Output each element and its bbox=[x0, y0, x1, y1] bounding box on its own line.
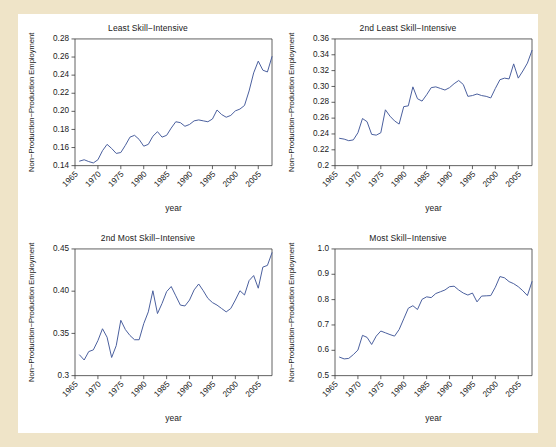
y-tick-label: 0.26 bbox=[53, 52, 69, 61]
plot-area-2nd-least-skill-intensive: 0.20.220.240.260.280.300.320.340.3619651… bbox=[278, 14, 538, 224]
y-tick-label: 1.0 bbox=[318, 244, 330, 253]
x-axis-title: year bbox=[165, 203, 182, 213]
x-tick-label: 1990 bbox=[129, 379, 149, 399]
y-tick-label: 0.45 bbox=[53, 244, 69, 253]
y-axis-title: Non−Production−Production Employment bbox=[27, 32, 36, 172]
x-tick-label: 1995 bbox=[198, 169, 218, 189]
plot-frame bbox=[335, 248, 532, 375]
x-tick-label: 2005 bbox=[504, 169, 524, 189]
x-tick-label: 1965 bbox=[61, 379, 81, 399]
x-tick-label: 2005 bbox=[504, 379, 524, 399]
x-tick-label: 1970 bbox=[344, 169, 364, 189]
x-tick-label: 1990 bbox=[175, 379, 195, 399]
x-axis-title: year bbox=[425, 203, 442, 213]
y-tick-label: 0.7 bbox=[318, 320, 330, 329]
x-tick-label: 1975 bbox=[106, 169, 126, 189]
y-tick-label: 0.28 bbox=[313, 97, 329, 106]
panel-2nd-least-skill-intensive: 2nd Least Skill−Intensive 0.20.220.240.2… bbox=[278, 14, 538, 224]
x-tick-label: 1995 bbox=[198, 379, 218, 399]
y-tick-label: 0.34 bbox=[313, 50, 329, 59]
x-axis-title: year bbox=[165, 412, 182, 422]
panel-most-skill-intensive: Most Skill−Intensive 0.50.60.70.80.91.01… bbox=[278, 224, 538, 434]
y-tick-label: 0.18 bbox=[53, 125, 69, 134]
x-tick-label: 2005 bbox=[244, 379, 264, 399]
y-tick-label: 0.26 bbox=[313, 113, 329, 122]
y-tick-label: 0.6 bbox=[318, 345, 330, 354]
y-tick-label: 0.36 bbox=[313, 34, 329, 43]
y-tick-label: 0.24 bbox=[313, 129, 329, 138]
x-tick-label: 1970 bbox=[84, 169, 104, 189]
x-tick-label: 1965 bbox=[321, 169, 341, 189]
y-tick-label: 0.2 bbox=[318, 161, 330, 170]
plot-area-most-skill-intensive: 0.50.60.70.80.91.01965197019751990198519… bbox=[278, 224, 538, 434]
x-tick-label: 1990 bbox=[389, 169, 409, 189]
x-tick-label: 1975 bbox=[366, 169, 386, 189]
y-tick-label: 0.16 bbox=[53, 143, 69, 152]
x-tick-label: 1995 bbox=[458, 379, 478, 399]
y-tick-label: 0.22 bbox=[313, 145, 329, 154]
x-axis-title: year bbox=[425, 412, 442, 422]
x-tick-label: 1990 bbox=[129, 169, 149, 189]
y-tick-label: 0.22 bbox=[53, 88, 69, 97]
y-tick-label: 0.5 bbox=[318, 370, 330, 379]
x-tick-label: 2000 bbox=[221, 379, 241, 399]
x-tick-label: 1995 bbox=[458, 169, 478, 189]
x-tick-label: 1970 bbox=[344, 379, 364, 399]
y-tick-label: 0.30 bbox=[313, 82, 329, 91]
y-axis-title: Non−Production−Production Employment bbox=[287, 32, 296, 172]
plot-frame bbox=[75, 39, 272, 166]
data-series-line bbox=[80, 57, 272, 163]
y-tick-label: 0.24 bbox=[53, 70, 69, 79]
plot-frame bbox=[75, 248, 272, 375]
x-tick-label: 1985 bbox=[152, 379, 172, 399]
x-tick-label: 2000 bbox=[481, 169, 501, 189]
panel-least-skill-intensive: Least Skill−Intensive 0.140.160.180.200.… bbox=[18, 14, 278, 224]
panel-grid: Least Skill−Intensive 0.140.160.180.200.… bbox=[18, 14, 538, 433]
x-tick-label: 1985 bbox=[412, 379, 432, 399]
figure-frame: Least Skill−Intensive 0.140.160.180.200.… bbox=[18, 14, 538, 433]
x-tick-label: 1975 bbox=[106, 379, 126, 399]
data-series-line bbox=[340, 276, 532, 358]
x-tick-label: 2000 bbox=[481, 379, 501, 399]
plot-area-2nd-most-skill-intensive: 0.30.350.400.451965197019751990198519901… bbox=[18, 224, 278, 434]
x-tick-label: 1985 bbox=[152, 169, 172, 189]
x-tick-label: 2000 bbox=[221, 169, 241, 189]
x-tick-label: 1990 bbox=[175, 169, 195, 189]
x-tick-label: 1990 bbox=[435, 379, 455, 399]
y-tick-label: 0.40 bbox=[53, 286, 69, 295]
y-tick-label: 0.3 bbox=[58, 370, 70, 379]
y-tick-label: 0.20 bbox=[53, 107, 69, 116]
plot-area-least-skill-intensive: 0.140.160.180.200.220.240.260.2819651970… bbox=[18, 14, 278, 224]
y-tick-label: 0.14 bbox=[53, 161, 69, 170]
x-tick-label: 2005 bbox=[244, 169, 264, 189]
x-tick-label: 1975 bbox=[366, 379, 386, 399]
x-tick-label: 1970 bbox=[84, 379, 104, 399]
x-tick-label: 1985 bbox=[412, 169, 432, 189]
data-series-line bbox=[340, 50, 532, 140]
y-axis-title: Non−Production−Production Employment bbox=[27, 241, 36, 381]
y-tick-label: 0.9 bbox=[318, 269, 330, 278]
data-series-line bbox=[80, 252, 272, 359]
y-tick-label: 0.28 bbox=[53, 34, 69, 43]
x-tick-label: 1965 bbox=[321, 379, 341, 399]
panel-2nd-most-skill-intensive: 2nd Most Skill−Intensive 0.30.350.400.45… bbox=[18, 224, 278, 434]
y-tick-label: 0.35 bbox=[53, 328, 69, 337]
plot-frame bbox=[335, 39, 532, 166]
y-tick-label: 0.32 bbox=[313, 66, 329, 75]
x-tick-label: 1990 bbox=[389, 379, 409, 399]
y-axis-title: Non−Production−Production Employment bbox=[287, 241, 296, 381]
x-tick-label: 1990 bbox=[435, 169, 455, 189]
x-tick-label: 1965 bbox=[61, 169, 81, 189]
y-tick-label: 0.8 bbox=[318, 294, 330, 303]
